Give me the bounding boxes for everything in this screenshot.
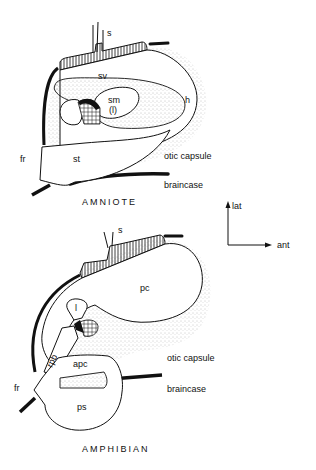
arrow-right-icon <box>265 243 272 248</box>
panel-title-amphibian: AMPHIBIAN <box>82 444 150 454</box>
label-sm: sm <box>108 95 120 105</box>
amphibian-panel: s pc l rpb apc fr ps otic capsule brainc… <box>14 225 215 454</box>
top-wall-right <box>150 43 168 44</box>
panel-title-amniote: AMNIOTE <box>82 197 137 207</box>
label-braincase: braincase <box>167 384 206 394</box>
label-pc: pc <box>140 283 150 293</box>
label-braincase: braincase <box>164 180 203 190</box>
label-h: h <box>185 95 190 105</box>
ear-comparison-diagram: s sv sm (l) h fr st otic capsule brainca… <box>0 0 316 470</box>
label-fr: fr <box>20 154 26 164</box>
label-sm-l: (l) <box>109 105 117 115</box>
label-otic-capsule: otic capsule <box>164 151 212 161</box>
foramen-wall-left <box>32 185 50 195</box>
label-ps: ps <box>77 402 87 412</box>
label-lat: lat <box>232 201 242 211</box>
label-apc: apc <box>73 359 88 369</box>
label-sv: sv <box>98 71 108 81</box>
label-ant: ant <box>277 240 290 250</box>
amniote-panel: s sv sm (l) h fr st otic capsule brainca… <box>20 22 212 207</box>
arrow-up-icon <box>226 201 231 208</box>
label-s: s <box>107 28 112 38</box>
stapes <box>104 232 113 248</box>
label-fr: fr <box>14 383 20 393</box>
foramen-wall-left <box>20 398 35 412</box>
label-l: l <box>75 303 77 313</box>
orientation-indicator: lat ant <box>226 201 291 250</box>
label-s: s <box>118 225 123 235</box>
label-otic-capsule: otic capsule <box>167 353 215 363</box>
label-st: st <box>73 154 81 164</box>
